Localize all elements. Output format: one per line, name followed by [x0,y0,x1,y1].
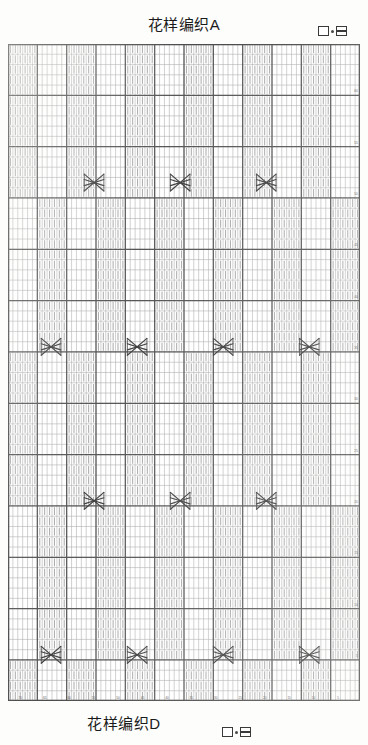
svg-text:65: 65 [43,696,47,700]
svg-text:40: 40 [354,295,358,299]
svg-text:25: 25 [238,696,242,700]
svg-text:15: 15 [354,551,358,555]
svg-text:30: 30 [214,696,218,700]
svg-text:60: 60 [354,89,358,93]
purl-square-symbol [240,727,251,737]
svg-text:70: 70 [18,696,22,700]
svg-text:55: 55 [92,696,96,700]
svg-text:35: 35 [354,346,358,350]
svg-text:35: 35 [190,696,194,700]
svg-text:50: 50 [116,696,120,700]
legend-separator-dot [331,30,334,33]
legend-separator-dot [235,731,238,734]
plain-square-symbol [222,727,233,737]
plain-square-symbol [318,26,329,36]
svg-text:40: 40 [165,696,169,700]
svg-text:15: 15 [287,696,291,700]
svg-text:50: 50 [354,192,358,196]
svg-text:25: 25 [354,449,358,453]
svg-text:5: 5 [356,654,358,658]
svg-text:55: 55 [354,141,358,145]
chart-grid-svg: 5101520253035404550556051015202530354045… [8,44,360,701]
purl-square-symbol [336,26,347,36]
svg-text:45: 45 [354,243,358,247]
svg-text:10: 10 [312,696,316,700]
svg-text:45: 45 [141,696,145,700]
svg-text:20: 20 [263,696,267,700]
svg-text:60: 60 [67,696,71,700]
page-title-top: 花样编织A [0,13,368,34]
svg-text:20: 20 [354,500,358,504]
svg-text:5: 5 [337,696,339,700]
svg-text:10: 10 [354,603,358,607]
knitting-pattern-chart: 5101520253035404550556051015202530354045… [8,44,360,701]
legend-top [318,26,347,36]
svg-text:30: 30 [354,397,358,401]
legend-bottom [222,727,251,737]
page-title-bottom: 花样编织D [0,712,248,733]
